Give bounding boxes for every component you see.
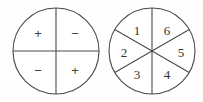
number-spinner-sector-right: 5 — [178, 45, 185, 60]
sign-spinner: + − − + — [13, 8, 99, 94]
number-spinner-sector-lower-right: 4 — [164, 67, 171, 82]
spinner-figure: + − − + 1 6 2 5 3 4 — [0, 0, 203, 102]
sign-spinner-sector-bottom-right: + — [71, 63, 79, 78]
number-spinner-sector-upper-right: 6 — [164, 23, 171, 38]
sign-spinner-sector-top-left: + — [34, 26, 42, 41]
number-spinner-sector-left: 2 — [121, 45, 128, 60]
spinner-diagram-canvas: + − − + 1 6 2 5 3 4 — [0, 0, 203, 102]
sign-spinner-sector-bottom-left: − — [34, 63, 42, 78]
number-spinner-sector-upper-left: 1 — [134, 23, 141, 38]
sign-spinner-sector-top-right: − — [71, 26, 79, 41]
number-spinner-sector-lower-left: 3 — [134, 67, 141, 82]
number-spinner: 1 6 2 5 3 4 — [109, 8, 195, 94]
